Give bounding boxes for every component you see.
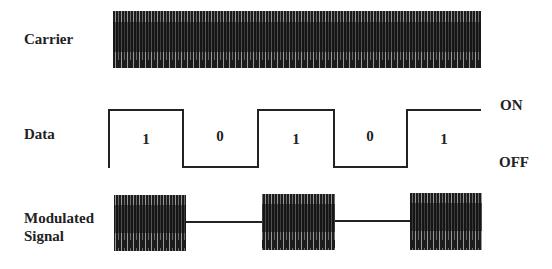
modulated-burst [114, 195, 186, 251]
modulated-burst [410, 193, 482, 250]
diagram-canvas [0, 0, 552, 269]
modulated-waveform [114, 193, 482, 251]
data-waveform [109, 110, 481, 168]
modulated-burst [262, 194, 335, 250]
carrier-waveform [113, 11, 481, 68]
